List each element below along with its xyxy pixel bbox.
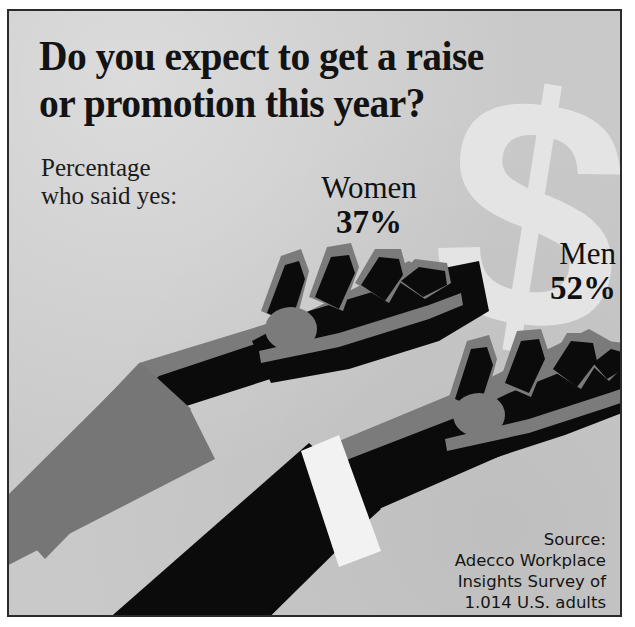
stat-women-value: 37% — [299, 204, 439, 240]
source-line-3: Insights Survey of — [455, 571, 606, 592]
source-line-4: 1.014 U.S. adults — [455, 592, 606, 613]
stat-men: Men 52% — [496, 237, 616, 306]
stat-men-label: Men — [496, 237, 616, 270]
subhead-line-2: who said yes: — [41, 182, 177, 210]
infographic-panel: $ — [7, 9, 622, 617]
headline-line-1: Do you expect to get a raise — [39, 33, 528, 80]
source-credit: Source: Adecco Workplace Insights Survey… — [455, 529, 606, 613]
infographic-root: $ — [0, 0, 635, 627]
subhead: Percentage who said yes: — [41, 154, 177, 210]
subhead-line-1: Percentage — [41, 154, 177, 182]
stat-women-label: Women — [299, 171, 439, 204]
stat-men-value: 52% — [496, 270, 616, 306]
headline: Do you expect to get a raise or promotio… — [39, 33, 528, 127]
source-line-2: Adecco Workplace — [455, 550, 606, 571]
stat-women: Women 37% — [299, 171, 439, 240]
source-line-1: Source: — [455, 529, 606, 550]
headline-line-2: or promotion this year? — [39, 80, 528, 127]
